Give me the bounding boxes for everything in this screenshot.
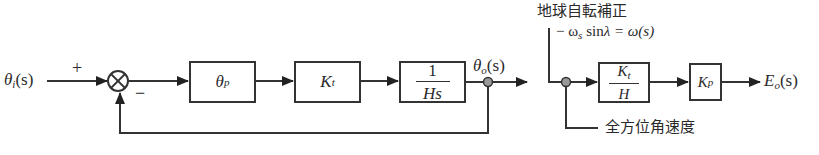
correction-equation: − ωs sinλ = ω(s) [556,24,654,41]
pickoff-point-correction [562,78,571,87]
block-one-over-hs: 1 Hs [399,61,466,103]
block-theta-p: θp [189,61,256,103]
block-kp: Kp [689,63,722,101]
plus-sign: + [72,59,82,77]
final-output-label: Eo(s) [764,72,798,91]
correction-title: 地球自転補正 [537,4,627,19]
block-kt-over-h: Kt H [598,62,650,103]
pickoff-point-theta-o [484,78,493,87]
input-label: θi(s) [4,71,33,90]
bottom-branch-line [566,86,598,128]
summing-junction [108,71,128,91]
block-kt: Kt [294,61,361,103]
bottom-label: 全方位角速度 [605,120,695,135]
minus-sign: − [135,84,145,102]
output-theta-label: θo(s) [473,57,505,76]
